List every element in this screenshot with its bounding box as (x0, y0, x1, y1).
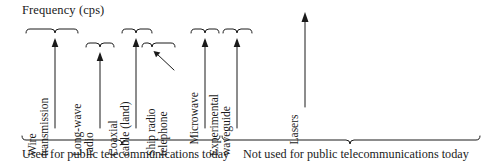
band-label-line1: Microwave (189, 92, 201, 144)
band-label-lasers: Lasers (289, 114, 301, 144)
brace-experimental-waveguide (223, 29, 252, 33)
footer-label-used-for-public-telecom: Used for public telecommunications today (22, 147, 229, 162)
arrowhead-experimental-waveguide (234, 38, 241, 47)
brace-coaxial-cable (122, 29, 152, 33)
brace-not-used-for-public-telecom (222, 136, 480, 144)
arrowhead-microwave (202, 38, 209, 47)
arrowhead-wire-transmission (52, 38, 59, 47)
arrow-ship-radio-telephone (157, 54, 174, 70)
brace-ship-radio-telephone (142, 43, 175, 47)
arrowhead-long-wave-radio (97, 52, 104, 61)
footer-label-not-used-for-public-telecom: Not used for public telecommunications t… (243, 147, 469, 162)
band-label-line1: Lasers (289, 114, 301, 144)
brace-long-wave-radio (86, 43, 114, 47)
brace-microwave (191, 29, 219, 33)
frequency-spectrum-figure: Frequency (cps) (0, 0, 491, 164)
arrowhead-coaxial-cable (133, 38, 140, 47)
arrowhead-lasers (302, 12, 309, 22)
brace-wire-transmission (26, 29, 78, 33)
band-label-microwave: Microwave (189, 92, 201, 144)
